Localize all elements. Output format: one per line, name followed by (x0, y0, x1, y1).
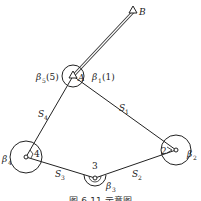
figure-caption: 图 6-11 示意图 (0, 194, 201, 201)
angle-label-beta1: β 1 (1) (91, 72, 115, 84)
station-point-2 (174, 148, 178, 152)
svg-text:4: 4 (8, 159, 12, 166)
triangle-icon-b (129, 6, 137, 13)
svg-text:3: 3 (112, 186, 116, 193)
traverse-diagram: B A 2 3 4 S 1 S 2 S 3 S 4 β 5 (5) β 1 (1… (0, 0, 201, 201)
station-point-4 (24, 155, 28, 159)
svg-text:2: 2 (193, 154, 197, 161)
angle-label-beta5: β 5 (5) (35, 72, 59, 84)
svg-text:1: 1 (125, 108, 129, 115)
svg-text:3: 3 (61, 174, 65, 181)
traverse-sides (26, 76, 176, 178)
side-label-s3: S 3 (55, 169, 65, 181)
svg-text:β: β (35, 72, 41, 82)
station-point-3 (93, 176, 97, 180)
label-3: 3 (92, 161, 98, 171)
svg-text:β: β (1, 154, 7, 164)
angle-label-beta3: β 3 (105, 181, 116, 193)
label-a: A (77, 73, 85, 83)
svg-text:2: 2 (138, 174, 142, 181)
svg-text:(5): (5) (46, 72, 59, 82)
label-b: B (138, 7, 146, 17)
svg-text:β: β (91, 72, 97, 82)
side-label-s4: S 4 (38, 109, 48, 121)
svg-text:4: 4 (44, 114, 48, 121)
side-label-s2: S 2 (132, 169, 142, 181)
svg-text:β: β (105, 181, 111, 191)
label-2: 2 (161, 146, 167, 156)
svg-text:(1): (1) (102, 72, 115, 82)
inner-angle-4 (30, 150, 33, 158)
label-4: 4 (34, 149, 40, 159)
side-label-s1: S 1 (119, 103, 129, 115)
baseline-ab (73, 12, 133, 76)
side-s4 (26, 76, 73, 157)
svg-text:β: β (186, 149, 192, 159)
